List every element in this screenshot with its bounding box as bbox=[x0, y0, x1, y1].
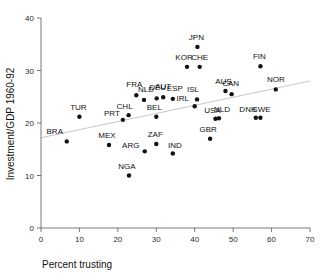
data-point-marker bbox=[154, 96, 158, 100]
data-point-marker bbox=[254, 116, 258, 120]
data-point-marker bbox=[171, 97, 175, 101]
data-point-marker bbox=[208, 137, 212, 141]
data-point-marker bbox=[65, 139, 69, 143]
x-tick-label: 50 bbox=[229, 235, 238, 244]
y-tick-label: 40 bbox=[25, 14, 34, 23]
x-tick-label: 60 bbox=[267, 235, 276, 244]
data-point-marker bbox=[223, 89, 227, 93]
data-point-marker bbox=[142, 98, 146, 102]
data-point-marker bbox=[217, 116, 221, 120]
data-point-label: TUR bbox=[70, 103, 87, 112]
data-point-marker bbox=[154, 142, 158, 146]
data-point-marker bbox=[229, 92, 233, 96]
data-point-label: ESP bbox=[167, 84, 183, 93]
data-point-label: FIN bbox=[253, 52, 266, 61]
y-tick-label: 10 bbox=[25, 172, 34, 181]
data-point-marker bbox=[258, 116, 262, 120]
y-tick-label: 30 bbox=[25, 67, 34, 76]
data-point-label: ISL bbox=[187, 85, 200, 94]
data-point-marker bbox=[195, 45, 199, 49]
scatter-chart-figure: 010203040506070010203040 BRATURMEXPRTCHL… bbox=[0, 0, 331, 280]
data-point-marker bbox=[171, 151, 175, 155]
data-point-label: GBR bbox=[199, 125, 217, 134]
data-point-marker bbox=[258, 64, 262, 68]
data-point-marker bbox=[161, 95, 165, 99]
data-point-label: ZAF bbox=[148, 130, 163, 139]
y-axis-title: Investment/GDP 1960-92 bbox=[5, 67, 16, 180]
data-point-marker bbox=[185, 65, 189, 69]
data-point-label: JPN bbox=[189, 33, 204, 42]
data-point-marker bbox=[127, 173, 131, 177]
data-point-marker bbox=[193, 104, 197, 108]
data-point-label: BEL bbox=[147, 103, 163, 112]
x-axis-title: Percent trusting bbox=[42, 259, 112, 270]
data-point-label: NGA bbox=[118, 162, 136, 171]
data-point-label: NLD bbox=[214, 105, 230, 114]
data-point-marker bbox=[195, 97, 199, 101]
tick-marks-group bbox=[37, 18, 310, 232]
data-point-label: MEX bbox=[98, 131, 116, 140]
data-point-marker bbox=[274, 87, 278, 91]
data-point-label: IRL bbox=[176, 94, 189, 103]
x-tick-label: 10 bbox=[75, 235, 84, 244]
data-point-marker bbox=[77, 115, 81, 119]
data-point-marker bbox=[126, 113, 130, 117]
data-point-marker bbox=[121, 118, 125, 122]
x-tick-label: 20 bbox=[113, 235, 122, 244]
data-point-marker bbox=[154, 115, 158, 119]
x-tick-label: 40 bbox=[190, 235, 199, 244]
data-point-label: IND bbox=[168, 141, 182, 150]
x-tick-label: 30 bbox=[152, 235, 161, 244]
tick-labels-group: 010203040506070010203040 bbox=[25, 14, 315, 244]
y-tick-label: 20 bbox=[25, 119, 34, 128]
data-point-label: BRA bbox=[47, 127, 64, 136]
y-tick-label: 0 bbox=[30, 224, 35, 233]
data-point-marker bbox=[198, 65, 202, 69]
data-point-label: CHL bbox=[117, 102, 134, 111]
point-labels-group: BRATURMEXPRTCHLNGAFRAARGNLDZAFBELDEUAUTE… bbox=[47, 33, 285, 171]
x-tick-label: 70 bbox=[306, 235, 315, 244]
x-tick-label: 0 bbox=[39, 235, 44, 244]
data-point-marker bbox=[107, 143, 111, 147]
axes-group bbox=[41, 18, 310, 228]
plot-area: 010203040506070010203040 BRATURMEXPRTCHL… bbox=[0, 0, 331, 280]
data-point-label: NOR bbox=[267, 75, 285, 84]
data-point-label: ARG bbox=[122, 141, 139, 150]
data-point-marker bbox=[143, 149, 147, 153]
data-point-label: CHE bbox=[191, 53, 208, 62]
data-point-label: SWE bbox=[252, 105, 270, 114]
data-point-label: CAN bbox=[222, 79, 239, 88]
